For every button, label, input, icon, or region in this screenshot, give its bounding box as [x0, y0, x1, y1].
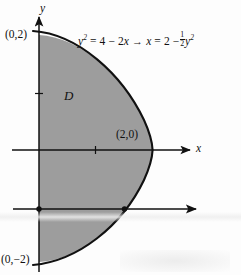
right-arrow-icon: →: [132, 35, 143, 47]
strip-dot-right: [122, 206, 127, 211]
equation-part-1: = 4 − 2: [90, 35, 124, 47]
equation-x-term-2: x: [146, 35, 151, 47]
point-label-0-neg2: (0,−2): [1, 254, 30, 266]
equation-rhs-exponent: 2: [190, 33, 194, 42]
strip-dot-left: [36, 206, 41, 211]
point-label-2-0: (2,0): [116, 129, 138, 141]
point-label-0-2: (0,2): [5, 29, 27, 41]
equation-annotation: y2 = 4 − 2x → x = 2 −12y2: [78, 31, 194, 48]
fraction-denominator: 2: [180, 40, 185, 48]
region-label-d: D: [64, 89, 73, 102]
equation-lhs-exponent: 2: [83, 33, 87, 42]
equation-fraction-one-half: 12: [180, 31, 185, 48]
equation-part-2: = 2 −: [154, 35, 179, 47]
x-axis-label: x: [196, 143, 201, 155]
y-axis-label: y: [40, 3, 45, 15]
equation-x-term-1: x: [124, 35, 129, 47]
figure-canvas: (0,2) (0,−2) (2,0) D x y y2 = 4 − 2x → x…: [0, 0, 241, 275]
